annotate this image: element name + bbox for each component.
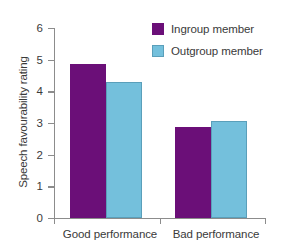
bar: [175, 127, 211, 218]
y-tick-label-5: 5: [37, 52, 43, 68]
y-axis-title: Speech favourability rating: [17, 37, 29, 207]
bar-chart-figure: Speech favourability rating Ingroup memb…: [0, 0, 281, 250]
y-tick-label-1: 1: [37, 178, 43, 194]
y-tick-6: 6: [48, 28, 54, 29]
y-tick-label-2: 2: [37, 147, 43, 163]
cropped-caption-fragment: [0, 0, 281, 9]
x-tick-end: [265, 218, 266, 224]
x-category-label-bad: Bad performance: [166, 228, 266, 240]
y-tick-label-3: 3: [37, 115, 43, 131]
x-tick-start: [54, 218, 55, 224]
y-tick-1: 1: [48, 186, 54, 187]
y-tick-3: 3: [48, 123, 54, 124]
y-tick-label-4: 4: [37, 83, 43, 99]
y-tick-label-6: 6: [37, 20, 43, 36]
y-tick-5: 5: [48, 60, 54, 61]
y-tick-2: 2: [48, 155, 54, 156]
bar: [211, 121, 247, 218]
bar: [106, 82, 142, 218]
y-axis-line: [54, 28, 55, 218]
x-tick-mid: [160, 218, 161, 224]
plot-area: 0123456 Good performance Bad performance: [54, 28, 266, 218]
x-category-label-good: Good performance: [60, 228, 160, 240]
y-tick-label-0: 0: [37, 210, 43, 226]
bar: [70, 64, 106, 218]
y-tick-4: 4: [48, 91, 54, 92]
